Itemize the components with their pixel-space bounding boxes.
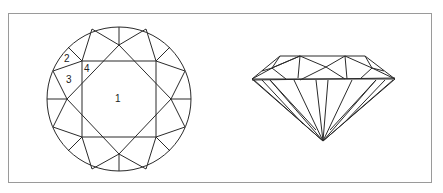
diamond-diagram: 1 2 3 4 [0, 0, 443, 193]
facet-label-1: 1 [115, 93, 121, 104]
facet-label-3: 3 [66, 74, 72, 85]
side-view-diagram [252, 56, 395, 141]
top-view-diagram: 1 2 3 4 [47, 27, 191, 171]
facet-label-2: 2 [64, 53, 70, 64]
facet-label-4: 4 [84, 63, 90, 74]
